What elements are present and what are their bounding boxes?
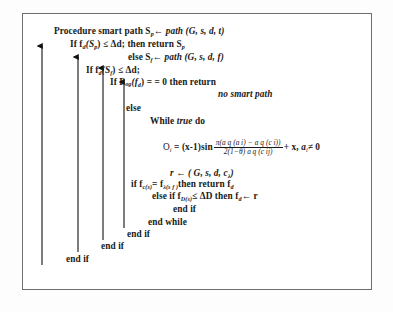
code-line-end-if-2: end if <box>127 230 150 239</box>
code-line-end-if-1: end if <box>173 205 196 214</box>
formula-fraction: π(a q (a i) − a q (c i))2(1−θ) a q (c ij… <box>214 139 283 156</box>
procedure-keyword: Procedure smart path S <box>54 26 151 36</box>
else-keyword: else S <box>128 52 151 62</box>
code-line-if-fd-sp: If fd(Sp) ≤ Δd; then return Sp <box>70 40 185 50</box>
delta-d-cond: ) ≤ Δd; <box>112 65 140 75</box>
return-sp-sub: p <box>182 44 185 50</box>
formula-operator: = (x-1)sin <box>174 142 213 152</box>
code-line-end-if-3: end if <box>101 242 124 251</box>
fraction-denominator: 2(1−θ) a q (c ij) <box>214 148 283 156</box>
code-line-elseif-dist: else if fD(s)≤ ΔD then fd← r <box>152 192 258 202</box>
code-line-while: While true do <box>150 117 205 126</box>
code-line-if-cost: if fc(s)= fλ(s f )then return fd <box>131 180 234 190</box>
then-return-fd: then return f <box>178 179 230 189</box>
if-keyword-2: If f <box>86 65 99 75</box>
lambda-sf-sub: λ(s f ) <box>163 184 178 190</box>
formula-tail: + x, <box>284 142 299 152</box>
pseudocode-figure: Procedure smart path Sp← path (G, s, d, … <box>0 0 393 312</box>
code-line-no-smart-path: no smart path <box>218 90 273 99</box>
assign-arrow-2: ← <box>153 52 162 62</box>
code-line-else: else <box>126 104 141 113</box>
paren-sp: (S <box>86 39 94 49</box>
if-keyword-4: if f <box>131 179 143 189</box>
code-line-assign-r: r ← ( G, s, d, cλ) <box>170 169 234 179</box>
code-line-if-fd-sf: If fd(Sf) ≤ Δd; <box>86 66 140 76</box>
r-value: r <box>253 191 257 201</box>
formula-lhs: O <box>163 142 170 152</box>
formula-condition-rest: ≠ 0 <box>308 142 320 152</box>
procedure-args: path (G, s, d, t) <box>166 26 225 36</box>
true-literal: true <box>177 116 193 126</box>
path-call: path (G, s, d, f) <box>165 52 224 62</box>
do-keyword: do <box>195 116 205 126</box>
paren-sf: (S <box>102 65 110 75</box>
r-variable: r <box>170 168 174 178</box>
cs-sub: c(s) <box>143 184 153 190</box>
code-line-procedure: Procedure smart path Sp← path (G, s, d, … <box>54 27 224 37</box>
assign-arrow: ← <box>154 26 163 36</box>
code-line-end-if-4: end if <box>66 255 89 264</box>
if-keyword-3: If P <box>110 77 125 87</box>
elseif-keyword: else if f <box>152 191 181 201</box>
equals-f: = f <box>152 179 163 189</box>
fd-sub-4: d <box>230 184 233 190</box>
if-keyword: If f <box>70 39 83 49</box>
code-line-end-while: end while <box>148 218 187 227</box>
code-line-else-path: else Sf← path (G, s, d, f) <box>128 53 224 63</box>
while-keyword: While <box>150 116 174 126</box>
condition-return: ) ≤ Δd; then return S <box>97 39 181 49</box>
r-args-close: ) <box>231 168 234 178</box>
code-line-if-pog: If Pog(fd) = = 0 then return <box>110 78 216 88</box>
r-args: ( G, s, d, c <box>188 168 228 178</box>
ds-sub: D(s) <box>181 196 192 202</box>
assign-arrow-3: ← <box>176 168 185 178</box>
delta-D-cond: ≤ ΔD then f <box>192 191 238 201</box>
code-line-formula: Oi = (x-1)sinπ(a q (a i) − a q (c i))2(1… <box>163 139 320 156</box>
equals-zero-return: ) = = 0 then return <box>141 77 216 87</box>
assign-arrow-4: ← <box>242 191 251 201</box>
oi-sub: i <box>170 147 172 153</box>
